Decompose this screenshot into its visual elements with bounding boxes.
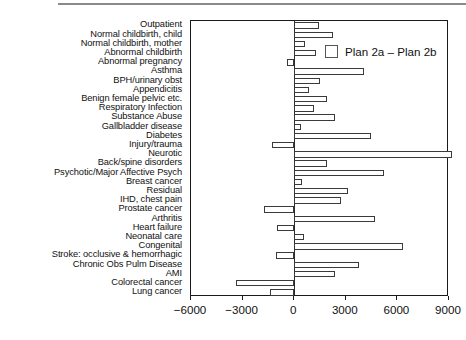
bar <box>294 114 335 120</box>
axis-tick-label: 3000 <box>332 303 358 316</box>
bar <box>294 243 403 249</box>
bar <box>294 41 304 47</box>
axis-tick <box>448 296 449 300</box>
bar <box>294 22 319 28</box>
bar <box>294 197 341 203</box>
axis-tick <box>242 296 243 300</box>
axis-tick-label: 6000 <box>383 303 409 316</box>
bar <box>294 87 309 93</box>
bar <box>287 59 294 65</box>
bar <box>294 105 314 111</box>
axis-tick-label: −3000 <box>225 303 258 316</box>
top-rule-divider <box>58 3 466 5</box>
axis-tick <box>396 296 397 300</box>
category-axis-labels: OutpatientNormal childbirth, childNormal… <box>0 20 186 296</box>
bar <box>236 280 294 286</box>
axis-tick <box>190 296 191 300</box>
axis-tick-label: 9000 <box>435 303 461 316</box>
zero-baseline <box>294 21 295 295</box>
bar <box>294 50 316 56</box>
bar <box>294 262 359 268</box>
bar <box>294 188 347 194</box>
bar <box>264 206 294 212</box>
legend-label: Plan 2a – Plan 2b <box>345 45 437 58</box>
axis-tick <box>293 296 294 300</box>
bars-container <box>191 21 447 295</box>
bar <box>294 133 371 139</box>
bar <box>294 179 302 185</box>
bar <box>276 252 294 258</box>
bar <box>294 68 364 74</box>
bar <box>277 225 294 231</box>
bar <box>294 170 384 176</box>
bar <box>270 289 294 295</box>
legend-swatch-plan-difference <box>325 45 338 58</box>
bar <box>294 151 451 157</box>
chart-page: OutpatientNormal childbirth, childNormal… <box>0 0 466 340</box>
axis-tick-label: −6000 <box>174 303 207 316</box>
bar <box>272 142 294 148</box>
bar <box>294 96 327 102</box>
bar <box>294 32 333 38</box>
axis-tick-label: 0 <box>290 303 296 316</box>
category-label: Lung cancer <box>132 286 182 296</box>
legend: Plan 2a – Plan 2b <box>325 45 437 58</box>
bar <box>294 234 303 240</box>
bar <box>294 124 301 130</box>
bar <box>294 160 327 166</box>
axis-tick <box>345 296 346 300</box>
plot-area: Plan 2a – Plan 2b <box>190 20 448 296</box>
bar <box>294 78 320 84</box>
value-axis-tick-labels: −6000−30000300060009000 <box>190 303 448 321</box>
bar <box>294 216 375 222</box>
bar <box>294 271 335 277</box>
